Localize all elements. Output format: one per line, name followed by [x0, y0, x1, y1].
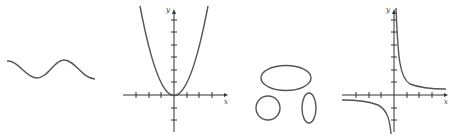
ellipses-graph [256, 66, 316, 124]
y-axis-label: y [385, 6, 391, 14]
x-axis-arrow-icon [444, 93, 448, 97]
parabola-graph: x y [123, 6, 228, 132]
hyperbola-graph: x y [342, 6, 448, 134]
wave-curve [7, 60, 95, 79]
x-axis-label: x [224, 98, 228, 106]
hyperbola-branch-positive [396, 8, 446, 89]
x-axis-arrow-icon [224, 93, 228, 97]
circle [256, 96, 280, 120]
x-axis-label: x [444, 98, 448, 106]
figure-panel: x y x y [0, 0, 453, 140]
y-axis-arrow-icon [172, 9, 176, 14]
vertical-ellipse [302, 93, 316, 123]
wave-graph [7, 60, 95, 79]
hyperbola-branch-negative [342, 100, 391, 134]
horizontal-ellipse [261, 66, 311, 91]
y-axis-label: y [165, 6, 171, 14]
